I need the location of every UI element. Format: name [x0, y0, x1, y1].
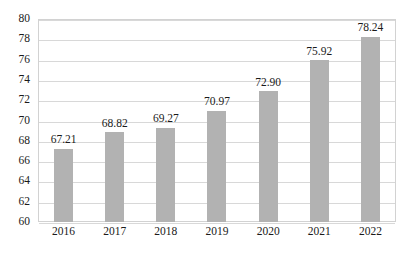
bar-slot: 75.92: [294, 19, 345, 222]
bar-value-label: 70.97: [204, 96, 230, 108]
x-axis-tick-label: 2021: [294, 226, 345, 246]
gridline: [39, 223, 395, 224]
y-axis-tick-label: 72: [19, 94, 31, 106]
bar[interactable]: 78.24: [361, 37, 380, 222]
bar-value-label: 68.82: [102, 118, 128, 130]
bar-series: 67.2168.8269.2770.9772.9075.9278.24: [38, 19, 396, 222]
x-axis-tick-label: 2022: [345, 226, 396, 246]
x-axis-tick-label: 2018: [140, 226, 191, 246]
bar[interactable]: 69.27: [156, 128, 175, 222]
y-axis-tick-label: 62: [19, 196, 31, 208]
x-axis-tick-label: 2016: [38, 226, 89, 246]
y-axis-tick-label: 64: [19, 176, 31, 188]
bar-slot: 70.97: [191, 19, 242, 222]
bar-slot: 69.27: [140, 19, 191, 222]
bar[interactable]: 68.82: [105, 132, 124, 222]
y-axis-tick-label: 80: [19, 13, 31, 25]
y-axis-tick-label: 70: [19, 115, 31, 127]
bar-value-label: 69.27: [153, 113, 179, 125]
bar[interactable]: 75.92: [310, 60, 329, 222]
bar-slot: 72.90: [243, 19, 294, 222]
y-axis-tick-label: 74: [19, 74, 31, 86]
bar-chart: 8078767472706866646260 67.2168.8269.2770…: [0, 0, 417, 261]
bar-slot: 68.82: [89, 19, 140, 222]
y-axis-tick-label: 78: [19, 34, 31, 46]
x-axis: 2016201720182019202020212022: [38, 226, 396, 246]
y-axis-tick-label: 66: [19, 155, 31, 167]
y-axis: 8078767472706866646260: [0, 19, 34, 222]
bar[interactable]: 70.97: [207, 111, 226, 222]
bar-slot: 67.21: [38, 19, 89, 222]
x-axis-tick-label: 2019: [191, 226, 242, 246]
y-axis-tick-label: 60: [19, 216, 31, 228]
y-axis-tick-label: 76: [19, 54, 31, 66]
y-axis-tick-label: 68: [19, 135, 31, 147]
bar-slot: 78.24: [345, 19, 396, 222]
bar-value-label: 75.92: [306, 46, 332, 58]
x-axis-tick-label: 2020: [243, 226, 294, 246]
bar[interactable]: 72.90: [259, 91, 278, 222]
x-axis-tick-label: 2017: [89, 226, 140, 246]
bar-value-label: 78.24: [357, 22, 383, 34]
bar[interactable]: 67.21: [54, 149, 73, 222]
bar-value-label: 67.21: [51, 134, 77, 146]
bar-value-label: 72.90: [255, 77, 281, 89]
